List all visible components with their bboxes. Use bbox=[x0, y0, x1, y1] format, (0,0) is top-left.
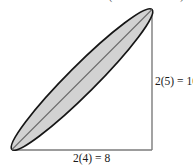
ellipse-group bbox=[2, 0, 162, 159]
vertical-measure-label: 2(5) = 10 bbox=[155, 75, 193, 88]
ellipse-figure: minor axis is 8 inches. (See illustratio… bbox=[0, 0, 193, 166]
ellipse-major-axis-line bbox=[12, 9, 152, 149]
horizontal-measure-label: 2(4) = 8 bbox=[73, 152, 110, 165]
